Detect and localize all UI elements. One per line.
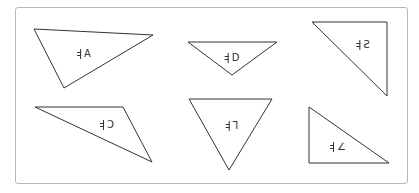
triangle-s bbox=[312, 22, 387, 96]
tick-mark-icon bbox=[77, 49, 82, 59]
tick-mark-icon bbox=[226, 121, 231, 131]
label-d: D bbox=[225, 52, 240, 64]
label-c-text: C bbox=[107, 120, 114, 130]
triangle-c bbox=[35, 107, 152, 162]
label-k-text: ∠ bbox=[337, 142, 346, 152]
label-d-text: D bbox=[232, 53, 240, 63]
label-a: A bbox=[77, 48, 91, 60]
label-k: ∠ bbox=[330, 141, 346, 153]
label-f-text: Γ bbox=[233, 121, 239, 131]
tick-mark-icon bbox=[225, 53, 230, 63]
label-c: C bbox=[100, 119, 114, 131]
triangles-canvas bbox=[0, 0, 419, 193]
label-f: Γ bbox=[226, 120, 239, 132]
label-s: S bbox=[356, 39, 369, 51]
triangle-a bbox=[34, 29, 153, 88]
tick-mark-icon bbox=[100, 120, 105, 130]
triangle-k bbox=[309, 107, 389, 163]
tick-mark-icon bbox=[330, 142, 335, 152]
label-s-text: S bbox=[363, 40, 369, 50]
triangle-f bbox=[189, 99, 272, 170]
tick-mark-icon bbox=[356, 40, 361, 50]
label-a-text: A bbox=[84, 49, 91, 59]
